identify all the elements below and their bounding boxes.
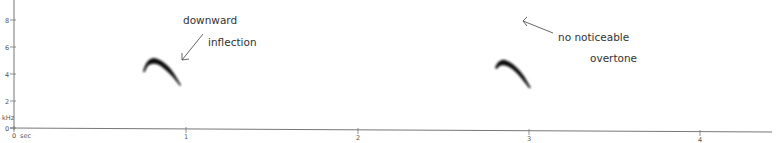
annotation-downward-inflection: downward inflection — [182, 14, 257, 60]
x-axis-unit: sec — [20, 132, 31, 140]
annotation-no-overtone: no noticeable overtone — [523, 17, 637, 64]
y-tick-4: 4 — [5, 71, 9, 79]
annotation-text-no-noticeable: no noticeable — [558, 31, 629, 43]
spectrogram-chart: 8 6 4 2 0 kHz 0 sec 1 2 3 4 downward inf… — [0, 0, 778, 143]
x-tick-4: 4 — [698, 136, 702, 143]
x-axis: 0 sec 1 2 3 4 — [10, 126, 772, 143]
y-axis-unit: kHz — [2, 114, 15, 122]
x-tick-2: 2 — [356, 134, 360, 142]
annotation-text-downward: downward — [183, 14, 237, 26]
arrow-icon — [523, 17, 553, 33]
y-tick-2: 2 — [5, 98, 9, 106]
call-2-trace — [495, 60, 531, 88]
y-tick-8: 8 — [5, 17, 9, 25]
x-tick-3: 3 — [527, 135, 531, 143]
annotation-text-inflection: inflection — [208, 36, 257, 48]
arrow-icon — [182, 34, 203, 60]
x-tick-1: 1 — [184, 133, 188, 141]
annotation-text-overtone: overtone — [590, 52, 637, 64]
call-1-trace — [143, 58, 181, 86]
y-tick-6: 6 — [5, 44, 9, 52]
x-tick-0: 0 — [12, 132, 16, 140]
y-tick-0: 0 — [5, 125, 9, 133]
y-axis: 8 6 4 2 0 kHz — [2, 0, 16, 133]
